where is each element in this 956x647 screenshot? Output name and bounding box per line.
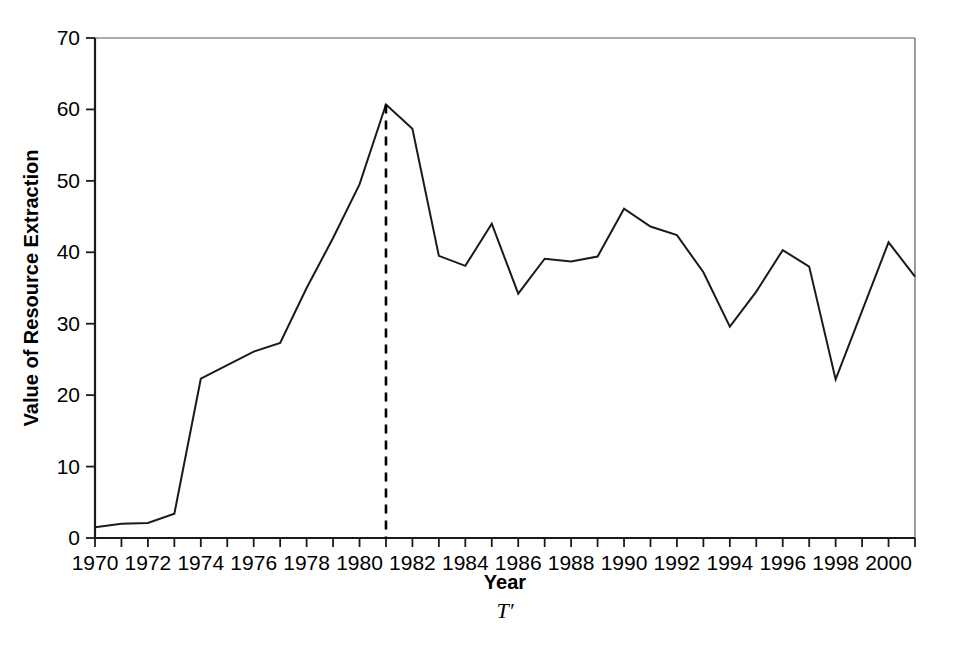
y-tick-label: 20 bbox=[57, 383, 80, 406]
x-tick-label: 1978 bbox=[283, 551, 330, 574]
y-axis-tick-labels: 010203040506070 bbox=[57, 26, 80, 549]
x-axis-title: Year bbox=[484, 571, 526, 593]
y-tick-label: 70 bbox=[57, 26, 80, 49]
x-tick-label: 1982 bbox=[389, 551, 436, 574]
x-tick-label: 1970 bbox=[72, 551, 119, 574]
x-tick-label: 1976 bbox=[230, 551, 277, 574]
y-tick-label: 30 bbox=[57, 312, 80, 335]
x-tick-label: 1990 bbox=[601, 551, 648, 574]
figure-container: 010203040506070 197019721974197619781980… bbox=[0, 0, 956, 647]
x-tick-label: 1992 bbox=[654, 551, 701, 574]
x-tick-label: 1998 bbox=[812, 551, 859, 574]
y-tick-label: 50 bbox=[57, 169, 80, 192]
x-tick-label: 1974 bbox=[177, 551, 224, 574]
x-axis-ticks bbox=[95, 538, 915, 547]
x-tick-label: 1994 bbox=[706, 551, 753, 574]
x-tick-label: 1972 bbox=[125, 551, 172, 574]
x-tick-label: 1984 bbox=[442, 551, 489, 574]
x-tick-label: 1988 bbox=[548, 551, 595, 574]
line-chart: 010203040506070 197019721974197619781980… bbox=[0, 0, 956, 647]
x-tick-label: 2000 bbox=[865, 551, 912, 574]
y-axis-ticks bbox=[86, 38, 95, 538]
t-prime-caption: T′ bbox=[496, 598, 514, 623]
y-axis-title: Value of Resource Extraction bbox=[20, 150, 42, 427]
y-tick-label: 40 bbox=[57, 240, 80, 263]
y-tick-label: 60 bbox=[57, 97, 80, 120]
y-tick-label: 0 bbox=[68, 526, 80, 549]
y-tick-label: 10 bbox=[57, 455, 80, 478]
data-series-line bbox=[95, 104, 915, 527]
x-tick-label: 1996 bbox=[759, 551, 806, 574]
x-tick-label: 1980 bbox=[336, 551, 383, 574]
